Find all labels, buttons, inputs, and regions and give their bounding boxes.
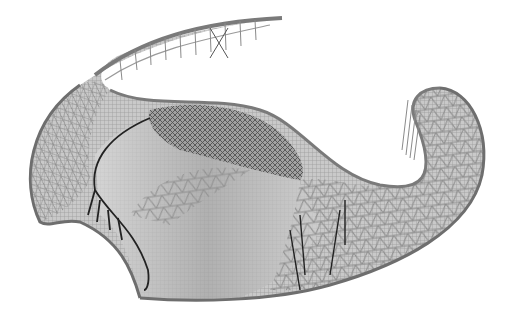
lattice-shell-drawing [0, 0, 508, 317]
structure-rendering: lattice shell structure rendering [0, 0, 508, 317]
upper-arch [95, 18, 282, 80]
